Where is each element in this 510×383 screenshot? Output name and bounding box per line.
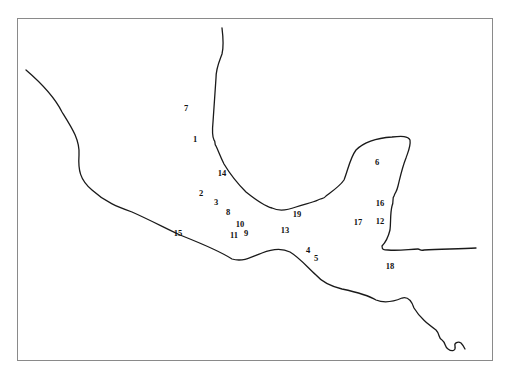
station-label-5: 5 <box>314 254 318 263</box>
station-label-19: 19 <box>293 210 302 219</box>
station-label-11: 11 <box>230 231 238 240</box>
station-label-15: 15 <box>174 229 183 238</box>
coastline-map <box>0 0 510 383</box>
station-label-17: 17 <box>354 218 363 227</box>
station-label-7: 7 <box>184 104 188 113</box>
station-label-6: 6 <box>375 158 379 167</box>
station-label-13: 13 <box>281 226 290 235</box>
station-label-18: 18 <box>386 262 395 271</box>
station-label-12: 12 <box>376 217 385 226</box>
station-label-10: 10 <box>236 220 245 229</box>
station-label-2: 2 <box>199 189 203 198</box>
north-peninsula-shoreline <box>213 28 476 250</box>
station-label-16: 16 <box>376 199 385 208</box>
station-label-1: 1 <box>193 135 197 144</box>
station-label-8: 8 <box>226 208 230 217</box>
station-label-4: 4 <box>306 246 310 255</box>
station-label-14: 14 <box>218 169 227 178</box>
southwest-shoreline <box>26 70 465 351</box>
station-label-9: 9 <box>244 229 248 238</box>
station-label-3: 3 <box>214 198 218 207</box>
